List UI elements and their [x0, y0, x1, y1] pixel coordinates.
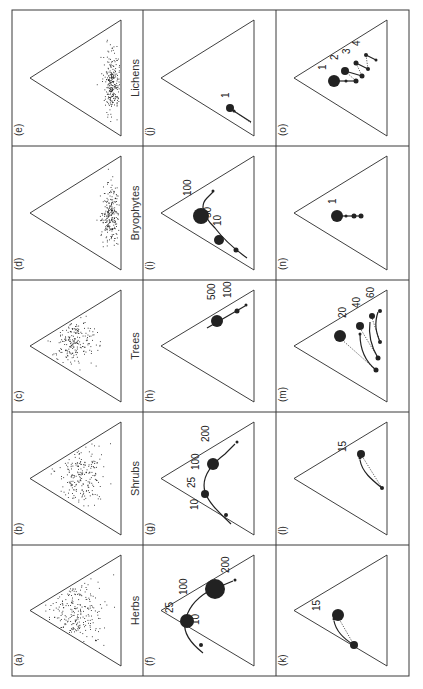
panel-k: (k)15: [277, 555, 387, 666]
scatter-cloud: [97, 169, 120, 247]
time-label: 1: [220, 92, 231, 98]
time-label: 20: [337, 306, 348, 318]
panel-label: (b): [13, 523, 24, 535]
arrow-head-icon: [212, 190, 215, 193]
panel-label: (e): [13, 124, 24, 136]
data-point: [357, 450, 365, 458]
time-label: 40: [351, 296, 362, 308]
trajectory: 500100: [206, 281, 248, 328]
panel-m: (m)204060: [277, 286, 387, 402]
time-label: 25: [186, 476, 197, 488]
panel-c: (c)Trees: [13, 290, 141, 402]
panel-a: (a)Herbs: [13, 555, 141, 666]
arrow-head-icon: [345, 80, 348, 83]
ternary-triangle: [294, 290, 387, 402]
data-point: [352, 214, 357, 219]
data-point: [376, 356, 381, 361]
group-label-bryophytes: Bryophytes: [129, 185, 141, 241]
arrow-head-icon: [233, 110, 236, 113]
time-label: 15: [311, 599, 322, 611]
panels: (a)Herbs(b)Shrubs(c)Trees(d)Bryophytes(e…: [13, 20, 387, 666]
arrow-head-icon: [333, 618, 336, 621]
data-point: [354, 79, 359, 84]
panel-label: (l): [277, 526, 288, 535]
panel-label: (h): [144, 390, 155, 402]
trajectory: 15: [337, 440, 384, 490]
time-label: 15: [337, 440, 348, 452]
scatter-cloud: [97, 40, 120, 122]
panel-j: (j)1: [144, 20, 254, 136]
data-point: [356, 322, 364, 330]
group-label-lichens: Lichens: [129, 59, 141, 97]
panel-label: (j): [144, 127, 155, 136]
ternary-triangle: [161, 20, 254, 136]
data-point: [369, 313, 375, 319]
data-point: [374, 368, 379, 373]
time-label: 100: [190, 453, 201, 470]
time-label: 1: [317, 64, 328, 70]
time-label: 2: [329, 54, 340, 60]
data-point: [366, 67, 370, 71]
panel-e: (e)Lichens: [13, 20, 141, 136]
data-point: [380, 486, 384, 490]
data-point: [350, 641, 358, 649]
trajectory: 1025100200: [164, 556, 237, 653]
ternary-triangle: [294, 422, 387, 535]
data-point: [341, 67, 349, 75]
trajectory: 204060: [334, 286, 382, 372]
time-label: 10: [189, 498, 200, 510]
time-label: 25: [164, 601, 175, 613]
trajectory-line: [204, 444, 235, 524]
data-point: [211, 315, 223, 327]
panel-label: (m): [277, 387, 288, 402]
data-point: [199, 643, 203, 647]
ternary-triangle: [294, 20, 387, 136]
data-point: [205, 579, 225, 599]
panel-label: (f): [144, 657, 155, 666]
scatter-cloud: [45, 574, 115, 645]
group-label-herbs: Herbs: [129, 595, 141, 625]
dotted-trajectory: [366, 55, 368, 69]
trajectory-line: [369, 322, 378, 358]
trajectory-line: [334, 621, 354, 645]
data-point: [375, 59, 378, 62]
arrow-head-icon: [236, 441, 239, 444]
panel-label: (o): [277, 124, 288, 136]
trajectory-line: [203, 192, 247, 258]
group-label-shrubs: Shrubs: [129, 461, 141, 496]
panel-label: (i): [144, 261, 155, 270]
trajectory-line: [376, 312, 380, 342]
panel-b: (b)Shrubs: [13, 422, 141, 535]
time-label: 50: [202, 206, 213, 218]
panel-label: (k): [277, 654, 288, 666]
data-point: [334, 330, 346, 342]
panel-h: (h)500100: [144, 281, 254, 402]
ternary-triangle: [161, 290, 254, 402]
trajectory-line: [360, 334, 376, 370]
group-label-trees: Trees: [129, 332, 141, 360]
time-label: 500: [206, 283, 217, 300]
panel-label: (d): [13, 258, 24, 270]
ternary-figure: (a)Herbs(b)Shrubs(c)Trees(d)Bryophytes(e…: [0, 0, 423, 689]
trajectory: 1: [220, 92, 251, 123]
time-label: 200: [220, 556, 231, 573]
trajectory-line: [360, 460, 382, 488]
time-label: 60: [365, 286, 376, 298]
data-point: [360, 74, 365, 79]
time-label: 10: [190, 613, 201, 625]
data-point: [364, 53, 368, 57]
panel-f: (f)1025100200: [144, 555, 254, 666]
dotted-trajectory: [338, 617, 354, 645]
data-point: [378, 340, 382, 344]
panel-d: (d)Bryophytes: [13, 156, 141, 270]
time-label: 4: [351, 40, 362, 46]
trajectory: 1234: [317, 40, 378, 87]
data-point: [235, 309, 240, 314]
time-label: 200: [200, 425, 211, 442]
panel-o: (o)1234: [277, 20, 387, 136]
time-label: 100: [222, 281, 233, 298]
time-label: 100: [178, 578, 189, 595]
arrow-head-icon: [345, 215, 348, 218]
data-point: [234, 248, 239, 253]
data-point: [224, 513, 228, 517]
